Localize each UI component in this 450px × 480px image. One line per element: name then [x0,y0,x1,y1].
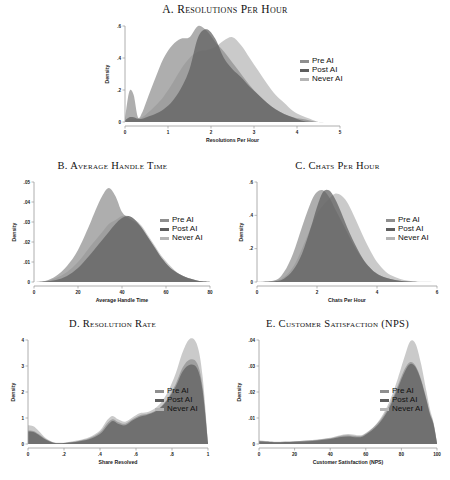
legend-item-pre-ai: Pre AI [380,387,423,395]
panel-d-resolution-rate: D. Resolution Rate 012340.2.4.6.81Share … [0,315,225,480]
x-axis-title: Share Resolved [99,459,138,465]
y-tick-label: .04 [24,200,31,205]
x-tick-label: 5 [339,130,342,135]
x-axis-title: Average Handle Time [96,297,149,303]
legend-label-pre-ai: Pre AI [398,216,420,224]
legend-label-pre-ai: Pre AI [172,216,194,224]
legend-label-pre-ai: Pre AI [392,387,414,395]
y-tick-label: .03 [24,220,31,225]
legend-item-post-ai: Post AI [155,396,198,404]
panel-a-plot: 0.2.4.6012345Resolutions Per HourDensity [0,18,450,153]
panel-b-average-handle-time: B. Average Handle Time 0.01.02.03.04.050… [0,158,225,313]
legend-swatch-post-ai-icon [380,399,389,402]
legend-label-never-ai: Never AI [312,75,343,83]
y-tick-label: 4 [21,338,24,343]
y-axis-title: Density [104,65,110,84]
legend-swatch-pre-ai-icon [380,390,389,393]
y-tick-label: 3 [21,364,24,369]
panel-c-plot: 0.2.4.60246Chats Per HourDensity [225,174,450,312]
x-tick-label: 3 [253,130,256,135]
legend-label-pre-ai: Pre AI [312,57,334,65]
legend-swatch-never-ai-icon [155,408,164,411]
legend-label-never-ai: Never AI [392,405,423,413]
legend-swatch-pre-ai-icon [300,60,309,63]
x-tick-label: 0 [27,452,30,457]
legend-label-never-ai: Never AI [167,405,198,413]
legend-swatch-never-ai-icon [300,78,309,81]
x-tick-label: 2 [210,130,213,135]
x-tick-label: 40 [328,452,334,457]
y-axis-title: Density [11,223,17,242]
y-tick-label: 0 [250,280,253,285]
x-tick-label: 2 [316,290,319,295]
y-tick-label: 2 [21,390,24,395]
legend-swatch-never-ai-icon [386,237,395,240]
panel-a-title: A. Resolutions Per Hour [0,3,450,15]
panel-e-title: E. Customer Satisfaction (NPS) [225,318,450,329]
density-panels-figure: A. Resolutions Per Hour 0.2.4.6012345Res… [0,0,450,480]
legend-label-post-ai: Post AI [167,396,192,404]
legend-label-post-ai: Post AI [312,66,337,74]
legend-swatch-post-ai-icon [300,69,309,72]
x-tick-label: 60 [363,452,369,457]
legend-label-never-ai: Never AI [172,234,203,242]
panel-b-plot: 0.01.02.03.04.05020406080Average Handle … [0,174,225,312]
x-tick-label: 0 [33,290,36,295]
y-tick-label: .4 [249,213,253,218]
legend-swatch-pre-ai-icon [155,390,164,393]
legend-item-pre-ai: Pre AI [155,387,198,395]
legend-item-never-ai: Never AI [155,405,198,413]
legend-swatch-post-ai-icon [386,228,395,231]
legend-item-post-ai: Post AI [386,225,429,233]
y-tick-label: .01 [249,416,256,421]
x-tick-label: 60 [163,290,169,295]
y-axis-title: Density [236,383,242,402]
y-tick-label: 0 [118,120,121,125]
legend-item-pre-ai: Pre AI [386,216,429,224]
y-tick-label: .01 [24,260,31,265]
x-tick-label: 80 [207,290,213,295]
legend-item-post-ai: Post AI [160,225,203,233]
panel-a-legend: Pre AI Post AI Never AI [300,57,343,83]
legend-item-post-ai: Post AI [300,66,343,74]
x-axis-title: Customer Satisfaction (NPS) [313,459,384,465]
x-tick-label: 40 [119,290,125,295]
x-tick-label: .8 [170,452,174,457]
x-tick-label: 20 [292,452,298,457]
legend-swatch-pre-ai-icon [386,219,395,222]
x-tick-label: 100 [433,452,441,457]
x-tick-label: 80 [399,452,405,457]
y-tick-label: 1 [21,416,24,421]
legend-label-pre-ai: Pre AI [167,387,189,395]
x-tick-label: 0 [256,290,259,295]
panel-b-title: B. Average Handle Time [0,160,225,171]
panel-c-chats-per-hour: C. Chats Per Hour 0.2.4.60246Chats Per H… [225,158,450,313]
panel-e-legend: Pre AI Post AI Never AI [380,387,423,413]
x-tick-label: 6 [436,290,439,295]
panel-b-legend: Pre AI Post AI Never AI [160,216,203,242]
y-tick-label: .6 [249,180,253,185]
panel-d-title: D. Resolution Rate [0,318,225,329]
legend-item-never-ai: Never AI [160,234,203,242]
x-axis-title: Chats Per Hour [328,297,366,303]
y-tick-label: .6 [117,24,121,29]
x-tick-label: 1 [207,452,210,457]
panel-c-legend: Pre AI Post AI Never AI [386,216,429,242]
x-tick-label: .2 [62,452,66,457]
legend-swatch-never-ai-icon [160,237,169,240]
legend-label-post-ai: Post AI [172,225,197,233]
y-tick-label: .02 [249,390,256,395]
legend-label-post-ai: Post AI [398,225,423,233]
y-tick-label: .02 [24,240,31,245]
legend-item-never-ai: Never AI [386,234,429,242]
legend-item-never-ai: Never AI [380,405,423,413]
legend-swatch-post-ai-icon [155,399,164,402]
legend-swatch-post-ai-icon [160,228,169,231]
legend-label-never-ai: Never AI [398,234,429,242]
y-tick-label: .2 [249,246,253,251]
y-tick-label: .4 [117,56,121,61]
legend-item-pre-ai: Pre AI [160,216,203,224]
panel-d-legend: Pre AI Post AI Never AI [155,387,198,413]
y-tick-label: .04 [249,338,256,343]
y-tick-label: 0 [21,442,24,447]
